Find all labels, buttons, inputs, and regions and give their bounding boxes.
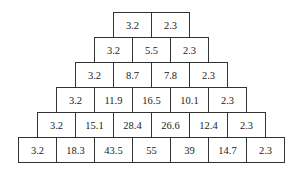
pyramid-cell: 15.1 bbox=[75, 112, 114, 138]
pyramid-cell: 2.3 bbox=[208, 87, 247, 113]
pyramid-cell: 5.5 bbox=[132, 37, 171, 63]
pyramid-cell: 10.1 bbox=[170, 87, 209, 113]
pyramid-cell: 26.6 bbox=[151, 112, 190, 138]
pyramid-cell: 11.9 bbox=[94, 87, 133, 113]
pyramid-cell: 3.2 bbox=[56, 87, 95, 113]
pyramid-cell: 2.3 bbox=[189, 62, 228, 88]
pyramid-cell: 7.8 bbox=[151, 62, 190, 88]
pyramid-cell: 2.3 bbox=[246, 137, 285, 163]
pyramid-cell: 16.5 bbox=[132, 87, 171, 113]
pyramid-cell: 55 bbox=[132, 137, 171, 163]
pyramid-cell: 43.5 bbox=[94, 137, 133, 163]
number-pyramid: 3.22.33.25.52.33.28.77.82.33.211.916.510… bbox=[0, 0, 300, 174]
pyramid-cell: 8.7 bbox=[113, 62, 152, 88]
pyramid-cell: 2.3 bbox=[170, 37, 209, 63]
pyramid-cell: 28.4 bbox=[113, 112, 152, 138]
pyramid-cell: 12.4 bbox=[189, 112, 228, 138]
pyramid-cell: 2.3 bbox=[227, 112, 266, 138]
pyramid-cell: 18.3 bbox=[56, 137, 95, 163]
pyramid-cell: 14.7 bbox=[208, 137, 247, 163]
pyramid-cell: 39 bbox=[170, 137, 209, 163]
pyramid-cell: 2.3 bbox=[151, 12, 190, 38]
pyramid-cell: 3.2 bbox=[18, 137, 57, 163]
pyramid-cell: 3.2 bbox=[75, 62, 114, 88]
pyramid-cell: 3.2 bbox=[113, 12, 152, 38]
pyramid-cell: 3.2 bbox=[37, 112, 76, 138]
pyramid-cell: 3.2 bbox=[94, 37, 133, 63]
